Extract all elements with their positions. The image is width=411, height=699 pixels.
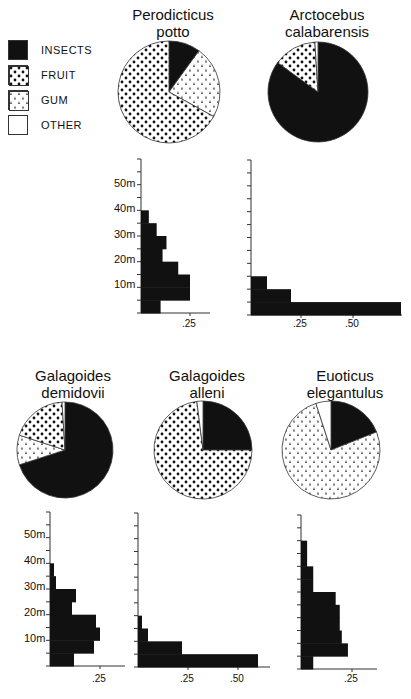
x-tick-25: .25: [92, 673, 106, 684]
y-tick-50m: 50m: [24, 528, 45, 540]
histogram-bar: [50, 602, 72, 615]
histogram-bar: [50, 576, 56, 589]
histogram-bar: [141, 262, 178, 275]
histogram-arctocebus-calabarensis: [247, 160, 402, 318]
y-tick-30m: 30m: [24, 580, 45, 592]
histogram-bar: [50, 589, 76, 602]
x-tick-25: .25: [182, 318, 196, 329]
y-tick-10m: 10m: [24, 632, 45, 644]
histogram-bar: [141, 249, 163, 262]
y-tick-20m: 20m: [24, 606, 45, 618]
x-tick-25: .25: [293, 318, 307, 329]
histogram-bar: [141, 236, 166, 249]
histogram-bar: [141, 300, 161, 313]
histogram-bar: [251, 276, 267, 289]
histogram-bar: [301, 631, 342, 644]
histogram-bar: [141, 223, 157, 236]
histogram-bar: [50, 640, 94, 653]
histogram-bar: [301, 566, 313, 579]
y-tick-40m: 40m: [114, 202, 135, 214]
histogram-bar: [141, 210, 149, 223]
histogram-euoticus-elegantulus: [297, 515, 377, 672]
histogram-bar: [50, 628, 100, 641]
histogram-bar: [141, 287, 190, 300]
histograms: [0, 0, 411, 699]
y-tick-30m: 30m: [114, 228, 135, 240]
x-tick-50: .50: [345, 318, 359, 329]
histogram-bar: [138, 629, 148, 642]
histogram-bar: [301, 592, 336, 605]
histogram-bar: [301, 643, 348, 656]
histogram-bar: [138, 654, 258, 667]
histogram-bar: [301, 605, 340, 618]
histogram-bar: [50, 563, 54, 576]
histogram-galagoides-demidovii: [46, 512, 125, 669]
x-tick-50: .50: [230, 673, 244, 684]
histogram-bar: [141, 275, 190, 288]
histogram-bar: [301, 541, 307, 554]
x-tick-25: .25: [180, 673, 194, 684]
histogram-galagoides-alleni: [134, 513, 270, 670]
histogram-perodicticus-potto: [137, 159, 210, 316]
x-tick-25: .25: [344, 673, 358, 684]
histogram-bar: [301, 618, 340, 631]
histogram-bar: [138, 616, 142, 629]
histogram-bar: [50, 615, 96, 628]
histogram-bar: [50, 653, 74, 666]
y-tick-10m: 10m: [114, 278, 135, 290]
y-tick-50m: 50m: [114, 177, 135, 189]
histogram-bar: [251, 302, 401, 315]
histogram-bar: [301, 554, 307, 567]
y-tick-20m: 20m: [114, 253, 135, 265]
histogram-bar: [301, 656, 313, 669]
histogram-bar: [251, 289, 291, 302]
histogram-bar: [138, 641, 182, 654]
y-tick-40m: 40m: [24, 554, 45, 566]
histogram-bar: [301, 579, 313, 592]
